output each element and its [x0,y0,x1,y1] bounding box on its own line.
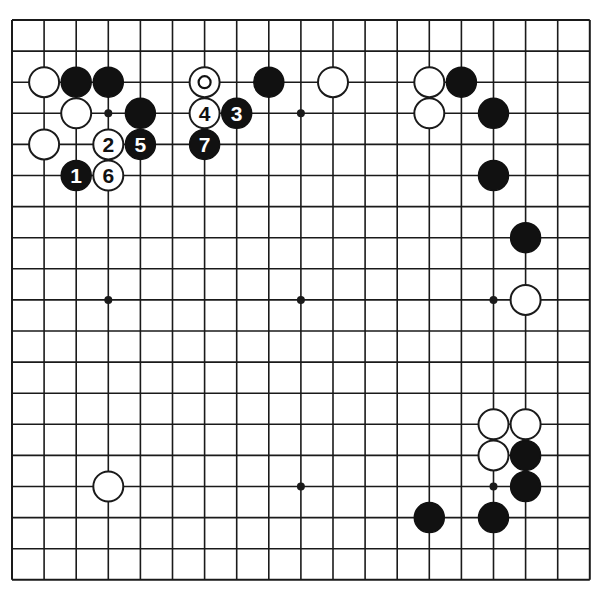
black-stone [93,67,123,97]
move-number-label: 6 [102,164,114,187]
numbered-black-stone: 3 [222,98,252,128]
go-board: 4325716 [0,0,598,596]
white-stone [479,440,509,470]
black-stone-icon [511,223,541,253]
star-point [104,296,112,304]
white-stone-icon [93,472,123,502]
white-stone-icon [61,98,91,128]
white-stone [414,98,444,128]
numbered-white-stone: 6 [93,161,123,191]
black-stone [479,98,509,128]
star-point [490,296,498,304]
white-stone-icon [29,67,59,97]
white-stone [29,129,59,159]
white-stone [93,472,123,502]
white-stone [511,409,541,439]
black-stone [511,440,541,470]
black-stone-icon [511,472,541,502]
move-number-label: 1 [70,164,82,187]
white-stone-icon [414,98,444,128]
move-number-label: 3 [231,102,243,125]
black-stone [479,503,509,533]
black-stone [61,67,91,97]
go-board-diagram: 4325716 [0,0,598,596]
white-stone [479,409,509,439]
white-stone [190,67,220,97]
move-number-label: 7 [199,133,211,156]
star-point [104,109,112,117]
black-stone-icon [414,503,444,533]
black-stone-icon [479,503,509,533]
black-stone [446,67,476,97]
move-number-label: 5 [135,133,147,156]
numbered-white-stone: 2 [93,129,123,159]
black-stone [511,472,541,502]
black-stone [254,67,284,97]
white-stone [414,67,444,97]
black-stone-icon [254,67,284,97]
white-stone-icon [29,129,59,159]
black-stone-icon [511,440,541,470]
star-point [297,296,305,304]
star-point [297,483,305,491]
black-stone [125,98,155,128]
black-stone-icon [446,67,476,97]
numbered-black-stone: 7 [190,129,220,159]
white-stone-icon [190,67,220,97]
black-stone-icon [125,98,155,128]
numbered-black-stone: 5 [125,129,155,159]
white-stone-icon [414,67,444,97]
black-stone-icon [479,98,509,128]
numbered-black-stone: 1 [61,161,91,191]
black-stone-icon [61,67,91,97]
numbered-white-stone: 4 [190,98,220,128]
black-stone [511,223,541,253]
white-stone [318,67,348,97]
white-stone [511,285,541,315]
black-stone-icon [479,161,509,191]
white-stone-icon [511,285,541,315]
white-stone-icon [479,440,509,470]
black-stone [479,161,509,191]
black-stone [414,503,444,533]
white-stone-icon [511,409,541,439]
move-number-label: 2 [102,133,114,156]
star-point [297,109,305,117]
white-stone [61,98,91,128]
white-stone-icon [318,67,348,97]
move-number-label: 4 [199,102,211,125]
star-point [490,483,498,491]
white-stone-icon [479,409,509,439]
black-stone-icon [93,67,123,97]
white-stone [29,67,59,97]
